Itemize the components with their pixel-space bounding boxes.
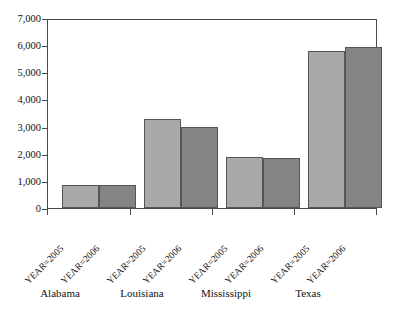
x-tick-mark-right <box>376 209 377 215</box>
bar-mississippi-2005[interactable] <box>226 157 263 208</box>
y-tick-mark-2000 <box>42 155 47 156</box>
y-tick-mark-3000 <box>42 128 47 129</box>
y-tick-label-3000: 3,000 <box>17 123 41 133</box>
x-tick-mark-left <box>47 209 48 215</box>
bar-group-mississippi <box>226 20 300 208</box>
y-tick-label-1000: 1,000 <box>17 177 41 187</box>
group-label-mississippi: Mississippi <box>201 287 251 299</box>
bar-alabama-2006[interactable] <box>99 185 136 208</box>
group-label-louisiana: Louisiana <box>120 287 163 299</box>
y-tick-mark-1000 <box>42 182 47 183</box>
bar-group-alabama <box>62 20 136 208</box>
y-tick-mark-4000 <box>42 100 47 101</box>
y-tick-mark-5000 <box>42 73 47 74</box>
y-tick-label-6000: 6,000 <box>17 41 41 51</box>
bar-group-texas <box>308 20 382 208</box>
y-tick-label-0: 0 <box>36 204 41 214</box>
bar-louisiana-2005[interactable] <box>144 119 181 208</box>
y-tick-label-5000: 5,000 <box>17 68 41 78</box>
x-tick-mark-3 <box>294 209 295 215</box>
bar-mississippi-2006[interactable] <box>263 158 300 208</box>
y-tick-label-4000: 4,000 <box>17 95 41 105</box>
bar-alabama-2005[interactable] <box>62 185 99 208</box>
bars-layer <box>48 20 376 208</box>
y-tick-mark-6000 <box>42 46 47 47</box>
x-tick-mark-1 <box>130 209 131 215</box>
bar-chart: 7,000 6,000 5,000 4,000 3,000 2,000 1,00… <box>0 0 393 309</box>
group-label-texas: Texas <box>295 287 321 299</box>
bar-louisiana-2006[interactable] <box>181 127 218 208</box>
y-tick-label-7000: 7,000 <box>17 14 41 24</box>
y-tick-label-2000: 2,000 <box>17 150 41 160</box>
x-tick-mark-2 <box>212 209 213 215</box>
y-tick-mark-7000 <box>42 19 47 20</box>
group-label-alabama: Alabama <box>40 287 80 299</box>
bar-texas-2006[interactable] <box>345 47 382 208</box>
bar-group-louisiana <box>144 20 218 208</box>
chart-title <box>0 0 393 3</box>
bar-texas-2005[interactable] <box>308 51 345 208</box>
